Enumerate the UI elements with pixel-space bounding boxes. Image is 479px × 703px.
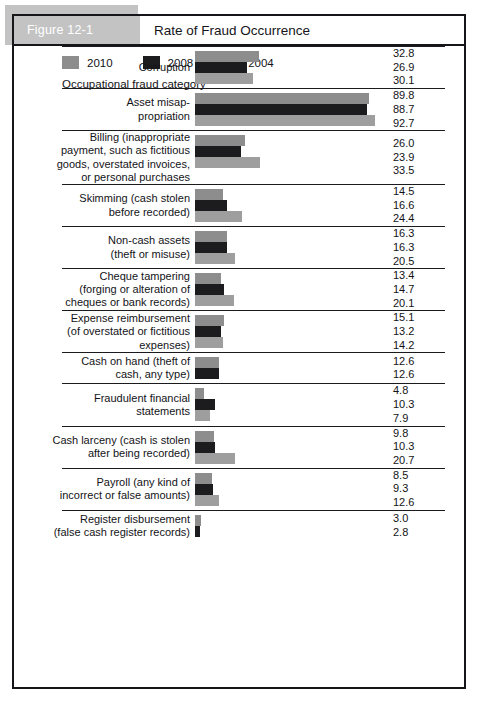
- category-label: Billing (inappropriatepayment, such as f…: [62, 131, 195, 184]
- bar-track: [195, 62, 389, 73]
- bar-2008: [195, 326, 221, 337]
- bar-2008: [195, 104, 367, 115]
- category-label-line: (of overstated or fictitious: [67, 325, 190, 338]
- bar-2004: [195, 157, 260, 168]
- category-label: Cash larceny (cash is stolenafter being …: [62, 427, 195, 468]
- bar-2008: [195, 442, 215, 453]
- chart-row: Non-cash assets(theft or misuse)16.316.3…: [62, 226, 445, 268]
- chart-row: Corruption32.826.930.1: [62, 46, 445, 88]
- bar-track: [195, 368, 389, 379]
- bar-track: [195, 473, 389, 484]
- bar-track: [195, 337, 389, 348]
- chart-row: Skimming (cash stolenbefore recorded)14.…: [62, 184, 445, 226]
- category-label: Fraudulent financialstatements: [62, 384, 195, 425]
- category-label-line: after being recorded): [88, 447, 190, 460]
- bar-track: [195, 410, 389, 421]
- value-label: 26.9: [393, 61, 445, 75]
- bar-track: [195, 442, 389, 453]
- value-labels: 9.810.320.7: [389, 427, 445, 468]
- value-labels: 13.414.720.1: [389, 269, 445, 310]
- figure-number-badge: Figure 12-1: [14, 16, 140, 44]
- category-label-line: goods, overstated invoices,: [57, 158, 190, 171]
- category-label-line: Payroll (any kind of: [96, 476, 190, 489]
- bar-track: [195, 357, 389, 368]
- bar-track: [195, 273, 389, 284]
- bar-group: [195, 384, 389, 425]
- value-label: 16.3: [393, 241, 445, 255]
- bar-track: [195, 73, 389, 84]
- bar-2004: [195, 495, 219, 506]
- bar-2004: [195, 73, 253, 84]
- value-label: 10.3: [393, 440, 445, 454]
- category-label: Cash on hand (theft ofcash, any type): [62, 353, 195, 383]
- value-label: 7.9: [393, 412, 445, 426]
- value-label: 89.8: [393, 89, 445, 103]
- category-label-line: expenses): [139, 339, 190, 352]
- value-label: 88.7: [393, 103, 445, 117]
- chart-row: Cash on hand (theft ofcash, any type)12.…: [62, 352, 445, 383]
- value-label: 30.1: [393, 74, 445, 88]
- bar-2010: [195, 189, 223, 200]
- bar-2010: [195, 93, 369, 104]
- value-label: 15.1: [393, 311, 445, 325]
- bar-2008: [195, 62, 247, 73]
- category-label: Register disbursement(false cash registe…: [62, 511, 195, 541]
- bar-group: [195, 469, 389, 510]
- bar-track: [195, 284, 389, 295]
- category-label: Expense reimbursement(of overstated or f…: [62, 311, 195, 352]
- bar-track: [195, 484, 389, 495]
- bar-track: [195, 515, 389, 526]
- figure-title: Rate of Fraud Occurrence: [154, 23, 310, 38]
- bar-track: [195, 453, 389, 464]
- bar-2008: [195, 284, 224, 295]
- value-labels: 3.02.8: [389, 511, 445, 541]
- bar-group: [195, 227, 389, 268]
- category-label-line: cheques or bank records): [65, 296, 190, 309]
- category-label: Cheque tampering(forging or alteration o…: [62, 269, 195, 310]
- bar-track: [195, 146, 389, 157]
- bar-track: [195, 93, 389, 104]
- figure-number-label: Figure 12-1: [27, 23, 93, 37]
- category-label-line: Cheque tampering: [99, 270, 190, 283]
- value-labels: 15.113.214.2: [389, 311, 445, 352]
- chart-row: Register disbursement(false cash registe…: [62, 510, 445, 541]
- category-label: Asset misap-propriation: [62, 89, 195, 130]
- value-label: 16.6: [393, 199, 445, 213]
- value-label: 32.8: [393, 47, 445, 61]
- bar-track: [195, 326, 389, 337]
- bar-2010: [195, 515, 201, 526]
- value-label: 20.1: [393, 297, 445, 311]
- value-labels: 26.023.933.5: [389, 131, 445, 184]
- value-label: 12.6: [393, 496, 445, 510]
- bar-track: [195, 231, 389, 242]
- value-label: 13.2: [393, 325, 445, 339]
- category-label-line: Register disbursement: [80, 513, 190, 526]
- category-label-line: propriation: [138, 110, 190, 123]
- bar-group: [195, 353, 389, 383]
- chart-row: Payroll (any kind ofincorrect or false a…: [62, 468, 445, 510]
- category-label-line: Fraudulent financial: [94, 392, 190, 405]
- chart-row: Billing (inappropriatepayment, such as f…: [62, 130, 445, 184]
- bar-2004: [195, 253, 235, 264]
- chart-row: Cash larceny (cash is stolenafter being …: [62, 426, 445, 468]
- value-labels: 14.516.624.4: [389, 185, 445, 226]
- bar-track: [195, 388, 389, 399]
- category-label-line: cash, any type): [115, 368, 190, 381]
- value-labels: 8.59.312.6: [389, 469, 445, 510]
- bar-group: [195, 427, 389, 468]
- value-labels: 4.810.37.9: [389, 384, 445, 425]
- category-label-line: (forging or alteration of: [79, 283, 190, 296]
- chart-row: Fraudulent financialstatements4.810.37.9: [62, 383, 445, 425]
- bar-track: [195, 157, 389, 168]
- bar-2004: [195, 337, 223, 348]
- value-label: 12.6: [393, 355, 445, 369]
- value-labels: 32.826.930.1: [389, 47, 445, 88]
- bar-2008: [195, 368, 219, 379]
- figure-frame: Figure 12-1 Rate of Fraud Occurrence Cor…: [12, 14, 466, 689]
- bar-group: [195, 269, 389, 310]
- bar-2010: [195, 388, 204, 399]
- value-label: 16.3: [393, 227, 445, 241]
- category-label-line: before recorded): [109, 206, 190, 219]
- category-label: Payroll (any kind ofincorrect or false a…: [62, 469, 195, 510]
- value-label: 2.8: [393, 526, 445, 540]
